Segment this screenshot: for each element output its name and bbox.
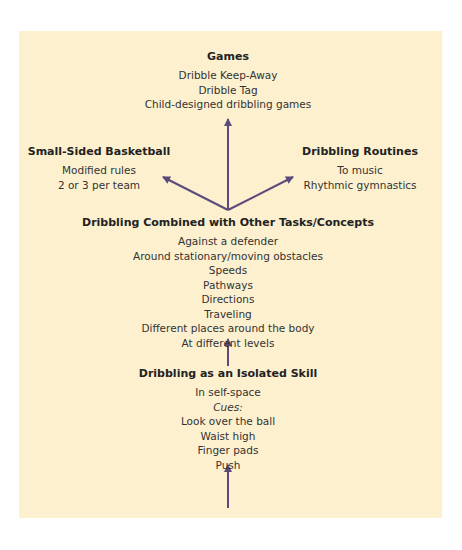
node-item: Speeds xyxy=(82,263,374,278)
node-small-sided-basketball: Small-Sided Basketball Modified rules 2 … xyxy=(28,145,171,192)
node-item: Traveling xyxy=(82,307,374,322)
node-games: Games Dribble Keep-Away Dribble Tag Chil… xyxy=(145,50,312,112)
arrow-to-small-sided-icon xyxy=(163,177,228,210)
node-item: Against a defender xyxy=(82,234,374,249)
node-dribbling-combined: Dribbling Combined with Other Tasks/Conc… xyxy=(82,216,374,350)
node-item: Finger pads xyxy=(139,443,317,458)
arrow-to-routines-icon xyxy=(228,177,293,210)
node-title: Dribbling Routines xyxy=(302,145,418,159)
node-item: Rhythmic gymnastics xyxy=(302,178,418,193)
node-item: To music xyxy=(302,163,418,178)
node-title: Games xyxy=(145,50,312,64)
node-item: Waist high xyxy=(139,429,317,444)
node-item: In self-space xyxy=(139,385,317,400)
node-item-cues-label: Cues: xyxy=(139,400,317,415)
node-item: Modified rules xyxy=(28,163,171,178)
node-item: Dribble Keep-Away xyxy=(145,68,312,83)
node-title: Dribbling as an Isolated Skill xyxy=(139,367,317,381)
node-item: Look over the ball xyxy=(139,414,317,429)
node-item: 2 or 3 per team xyxy=(28,178,171,193)
node-title: Small-Sided Basketball xyxy=(28,145,171,159)
node-item: Different places around the body xyxy=(82,321,374,336)
node-dribbling-routines: Dribbling Routines To music Rhythmic gym… xyxy=(302,145,418,192)
node-item: Child-designed dribbling games xyxy=(145,97,312,112)
node-item: Dribble Tag xyxy=(145,83,312,98)
node-item: Pathways xyxy=(82,278,374,293)
node-item: Around stationary/moving obstacles xyxy=(82,249,374,264)
node-item: At different levels xyxy=(82,336,374,351)
node-item: Directions xyxy=(82,292,374,307)
node-item: Push xyxy=(139,458,317,473)
node-dribbling-isolated: Dribbling as an Isolated Skill In self-s… xyxy=(139,367,317,472)
node-title: Dribbling Combined with Other Tasks/Conc… xyxy=(82,216,374,230)
